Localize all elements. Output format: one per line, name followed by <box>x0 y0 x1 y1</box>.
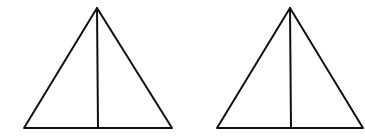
right-triangle-median <box>290 8 291 128</box>
left-triangle <box>24 8 172 128</box>
triangles-svg <box>0 0 365 137</box>
left-triangle-median <box>97 8 98 128</box>
diagram-canvas <box>0 0 365 137</box>
right-triangle <box>217 8 363 128</box>
